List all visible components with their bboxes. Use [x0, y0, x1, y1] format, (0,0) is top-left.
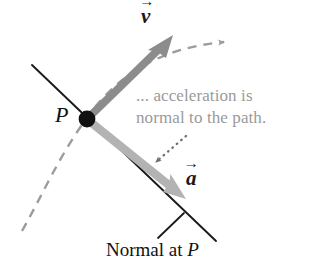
acceleration-symbol-stack: → a — [186, 168, 197, 189]
annotation-line-2: normal to the path. — [136, 107, 266, 129]
velocity-symbol: v — [141, 4, 150, 28]
acceleration-vector-shaft — [88, 120, 170, 186]
point-p-label: P — [55, 104, 68, 126]
caption-leader-stroke — [158, 213, 184, 238]
acceleration-vector — [88, 120, 186, 199]
callout-pointer-stroke — [156, 136, 186, 162]
acceleration-vector-label: → a — [186, 168, 197, 189]
velocity-symbol-stack: → v — [141, 6, 150, 27]
callout-pointer — [156, 136, 186, 162]
velocity-vector-label: → v — [141, 6, 150, 27]
figure-container: → v → a P ... acceleration is normal to … — [0, 0, 311, 268]
caption-leader-line — [158, 213, 184, 238]
caption-point-symbol: P — [187, 239, 199, 260]
point-p-marker — [79, 111, 96, 128]
acceleration-symbol: a — [186, 166, 197, 190]
path-curve — [22, 42, 224, 231]
annotation-line-1: ... acceleration is — [136, 85, 266, 107]
point-p-dot — [79, 111, 96, 128]
annotation-callout: ... acceleration is normal to the path. — [136, 85, 266, 129]
caption-normal-at-p: Normal at P — [106, 240, 199, 259]
caption-text: Normal at — [106, 239, 187, 260]
path-curve-stroke — [22, 42, 224, 231]
vector-diagram-canvas — [0, 0, 311, 268]
